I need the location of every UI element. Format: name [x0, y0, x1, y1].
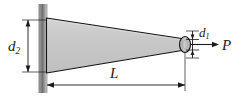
label-d2-base: d: [8, 38, 16, 54]
label-d2: d2: [8, 39, 20, 54]
force-arrow-P: [190, 42, 219, 48]
label-d1-subscript: 1: [206, 32, 210, 41]
label-d1: d1: [199, 26, 210, 39]
label-length-l: L: [110, 66, 118, 81]
tapered-bar-figure: d2 d1 P L: [0, 0, 242, 100]
label-d1-base: d: [199, 25, 206, 40]
label-force-p: P: [222, 38, 231, 53]
support-wall: [39, 4, 47, 93]
figure-canvas: [0, 0, 242, 100]
label-d2-subscript: 2: [16, 46, 21, 56]
